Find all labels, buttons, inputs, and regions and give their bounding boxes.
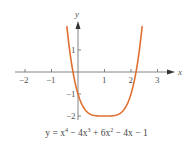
caption-text: + 6x (91, 128, 111, 138)
x-tick-label: −1 (46, 75, 56, 85)
x-tick-label: 3 (155, 75, 160, 85)
y-tick-label: −1 (66, 89, 76, 99)
x-axis-label: x (177, 67, 182, 77)
x-tick-label: 2 (129, 75, 134, 85)
caption-text: − 4x − 1 (113, 128, 147, 138)
caption-text: − 4x (68, 128, 88, 138)
y-axis-arrow-icon (76, 21, 81, 29)
y-axis-label: y (74, 9, 79, 19)
y-ticks (78, 50, 81, 116)
x-ticks (25, 69, 158, 72)
y-tick-label: −2 (66, 111, 76, 121)
x-tick-label: 1 (102, 75, 107, 85)
x-axis-arrow-icon (167, 70, 175, 75)
function-caption: y = x4 − 4x3 + 6x2 − 4x − 1 (0, 127, 193, 138)
function-plot: x y −2 −1 1 2 3 1 −1 −2 (0, 0, 193, 126)
x-tick-label: −2 (19, 75, 29, 85)
caption-text: y = x (45, 128, 65, 138)
y-tick-label: 1 (71, 45, 76, 55)
